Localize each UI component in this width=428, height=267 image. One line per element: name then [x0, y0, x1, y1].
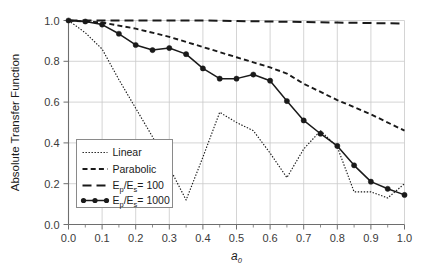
- series-marker-3: [184, 52, 189, 57]
- chart-legend: LinearParabolicEp/Es= 100Ep/Es= 1000: [77, 140, 173, 209]
- legend-label-base: E: [113, 179, 120, 191]
- series-marker-3: [66, 18, 71, 23]
- x-tick-label: 0.3: [162, 232, 177, 244]
- x-axis-title: a0: [231, 249, 243, 265]
- x-tick-label: 0.2: [128, 232, 143, 244]
- series-marker-3: [268, 78, 273, 83]
- x-tick-label: 0.7: [296, 232, 311, 244]
- legend-label-tail: = 1000: [137, 194, 170, 206]
- y-tick-label: 0.8: [44, 55, 59, 67]
- series-marker-3: [234, 76, 239, 81]
- series-marker-3: [284, 98, 289, 103]
- x-tick-label: 0.5: [229, 232, 244, 244]
- y-tick-label: 0.4: [44, 137, 59, 149]
- series-marker-3: [368, 179, 373, 184]
- chart-figure: 0.00.10.20.30.40.50.60.70.80.91.00.00.20…: [0, 0, 428, 267]
- legend-label-mid: /E: [124, 194, 134, 206]
- x-tick-label: 0.9: [363, 232, 378, 244]
- absolute-transfer-function-chart: 0.00.10.20.30.40.50.60.70.80.91.00.00.20…: [0, 0, 428, 267]
- series-marker-3: [335, 143, 340, 148]
- x-tick-label: 0.4: [195, 232, 210, 244]
- y-tick-label: 0.2: [44, 178, 59, 190]
- series-marker-3: [352, 163, 357, 168]
- y-tick-label: 0.6: [44, 96, 59, 108]
- series-marker-3: [116, 31, 121, 36]
- x-tick-label: 0.1: [94, 232, 109, 244]
- legend-label-0: Linear: [113, 146, 143, 158]
- series-marker-3: [301, 118, 306, 123]
- series-marker-3: [100, 22, 105, 27]
- legend-label-1: Parabolic: [113, 163, 157, 175]
- series-marker-3: [217, 76, 222, 81]
- legend-label-mid: /E: [124, 179, 134, 191]
- y-axis-title: Absolute Transfer Function: [9, 54, 21, 191]
- x-tick-label: 0.6: [262, 232, 277, 244]
- series-marker-3: [150, 47, 155, 52]
- series-marker-3: [385, 186, 390, 191]
- series-marker-3: [167, 45, 172, 50]
- tick-labels: 0.00.10.20.30.40.50.60.70.80.91.00.00.20…: [44, 15, 412, 244]
- y-tick-label: 0.0: [44, 219, 59, 231]
- x-axis-title-subscript: 0: [238, 256, 243, 265]
- legend-sample-marker-3: [81, 198, 86, 203]
- legend-label-base: E: [113, 194, 120, 206]
- x-tick-label: 1.0: [397, 232, 412, 244]
- series-marker-3: [200, 66, 205, 71]
- series-marker-3: [402, 192, 407, 197]
- legend-label-tail: = 100: [137, 179, 164, 191]
- x-tick-label: 0.8: [330, 232, 345, 244]
- legend-sample-marker-3: [92, 198, 97, 203]
- series-marker-3: [318, 131, 323, 136]
- legend-sample-marker-3: [104, 198, 109, 203]
- y-tick-label: 1.0: [44, 15, 59, 27]
- series-marker-3: [83, 19, 88, 24]
- series-marker-3: [133, 42, 138, 47]
- series-marker-3: [251, 72, 256, 77]
- x-tick-label: 0.0: [61, 232, 76, 244]
